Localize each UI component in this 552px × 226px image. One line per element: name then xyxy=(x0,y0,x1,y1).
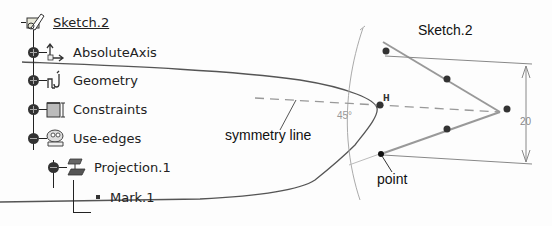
tree-label-geometry: Geometry xyxy=(73,73,138,88)
use-edges-icon xyxy=(45,128,67,148)
expand-constraints-toggle[interactable] xyxy=(28,104,39,115)
expand-absoluteaxis-toggle[interactable] xyxy=(28,47,39,58)
dimension-value[interactable]: 20 xyxy=(520,116,531,127)
symmetry-leader xyxy=(280,100,296,130)
svg-text:H: H xyxy=(383,94,390,103)
upper-leg xyxy=(383,42,500,112)
point-label: point xyxy=(377,171,407,187)
tree-node-projection[interactable]: Projection.1 xyxy=(66,156,171,178)
tree-node-use-edges[interactable]: Use-edges xyxy=(45,127,141,149)
projection-icon xyxy=(66,157,88,177)
tree-node-geometry[interactable]: Geometry xyxy=(45,69,138,91)
tree-node-absoluteaxis[interactable]: AbsoluteAxis xyxy=(45,41,157,63)
tree-node-mark[interactable]: Mark.1 xyxy=(94,186,154,208)
expand-geometry-toggle[interactable] xyxy=(28,75,39,86)
tree-node-sketch[interactable]: Sketch.2 xyxy=(25,11,109,33)
sketch-icon xyxy=(25,12,47,32)
axis-icon xyxy=(45,42,67,62)
mark-bullet-icon xyxy=(96,195,100,199)
sketch-point xyxy=(378,151,384,157)
tree-label-mark: Mark.1 xyxy=(110,190,154,205)
tree-label-projection: Projection.1 xyxy=(94,160,171,175)
lower-leg xyxy=(381,112,500,154)
tree-label-constraints: Constraints xyxy=(73,102,147,117)
collapse-use-edges-toggle[interactable] xyxy=(28,133,39,144)
sketch-title: Sketch.2 xyxy=(418,22,472,38)
tree-label-sketch: Sketch.2 xyxy=(53,15,109,30)
tree-label-use-edges: Use-edges xyxy=(73,131,141,146)
symmetry-line-label: symmetry line xyxy=(225,127,311,143)
constraints-icon xyxy=(45,99,67,119)
geometry-icon xyxy=(45,70,67,90)
point-leader xyxy=(382,156,392,172)
specification-tree: Sketch.2 AbsoluteAxis Geometry Constrain… xyxy=(0,0,200,226)
collapse-projection-toggle[interactable] xyxy=(48,162,59,173)
tree-label-absoluteaxis: AbsoluteAxis xyxy=(73,45,157,60)
tree-node-constraints[interactable]: Constraints xyxy=(45,98,147,120)
constraint-symbol xyxy=(377,48,511,133)
angle-value[interactable]: 45° xyxy=(337,110,352,121)
